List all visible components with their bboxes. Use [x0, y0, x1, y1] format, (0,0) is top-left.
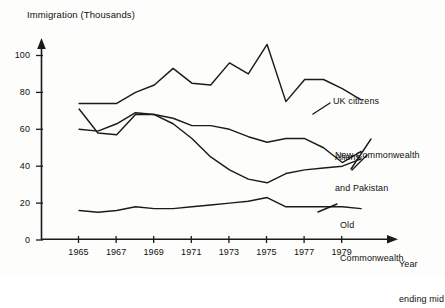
x-tick-label-1969: 1969 — [137, 247, 171, 257]
series-line-old-commonwealth — [79, 198, 361, 213]
y-axis-arrowhead — [37, 38, 46, 49]
leader-line-uk-citizens — [313, 103, 330, 114]
x-tick-label-1977: 1977 — [287, 247, 321, 257]
series-label-aliens: Aliens — [335, 152, 360, 163]
x-tick-label-1967: 1967 — [99, 247, 133, 257]
series-label-oldcw-line2: Commonwealth — [340, 253, 404, 264]
x-axis-label-line1: Year — [399, 259, 444, 271]
series-label-uk-citizens: UK citizens — [333, 96, 379, 107]
x-tick-label-1975: 1975 — [250, 247, 284, 257]
y-tick-label-100: 100 — [4, 50, 30, 60]
x-axis-label: Year ending mid — [399, 236, 444, 308]
y-tick-label-80: 80 — [4, 87, 30, 97]
series-lines — [79, 44, 361, 212]
series-label-ncp-line2: and Pakistan — [335, 183, 420, 194]
y-tick-label-60: 60 — [4, 124, 30, 134]
x-tick-label-1971: 1971 — [174, 247, 208, 257]
page-title: Immigration (Thousands) — [27, 9, 135, 20]
y-tick-label-20: 20 — [4, 198, 30, 208]
x-tick-label-1973: 1973 — [212, 247, 246, 257]
y-tick-label-0: 0 — [4, 235, 30, 245]
series-label-old-commonwealth: Old Commonwealth — [340, 198, 404, 286]
series-line-new-commonwealth-and-pakistan — [79, 113, 361, 163]
series-label-oldcw-line1: Old — [340, 220, 404, 231]
y-tick-label-40: 40 — [4, 161, 30, 171]
series-line-uk-citizens — [79, 44, 361, 103]
x-axis-label-line2: ending mid — [399, 294, 444, 306]
x-tick-label-1965: 1965 — [62, 247, 96, 257]
